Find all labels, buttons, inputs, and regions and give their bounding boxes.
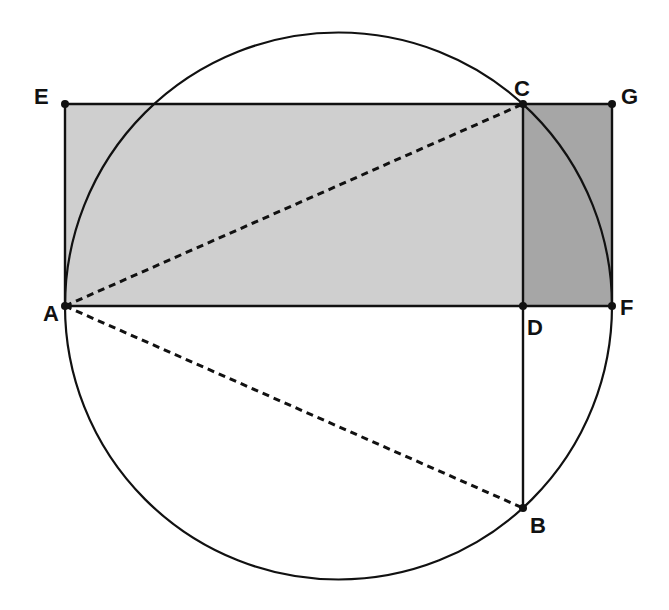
label-b: B [530, 513, 546, 538]
geometry-figure: E C G A D F B [0, 0, 669, 610]
point-c [519, 100, 527, 108]
label-e: E [34, 84, 49, 109]
segment-ab-dashed [65, 306, 523, 508]
point-b [519, 504, 527, 512]
label-a: A [43, 301, 59, 326]
point-f [608, 302, 616, 310]
point-e [61, 100, 69, 108]
label-g: G [621, 84, 638, 109]
point-d [519, 302, 527, 310]
label-d: D [527, 315, 543, 340]
label-f: F [620, 295, 633, 320]
point-a [61, 302, 69, 310]
rectangle-dcgf-fill [523, 104, 612, 306]
label-c: C [514, 76, 530, 101]
point-g [608, 100, 616, 108]
